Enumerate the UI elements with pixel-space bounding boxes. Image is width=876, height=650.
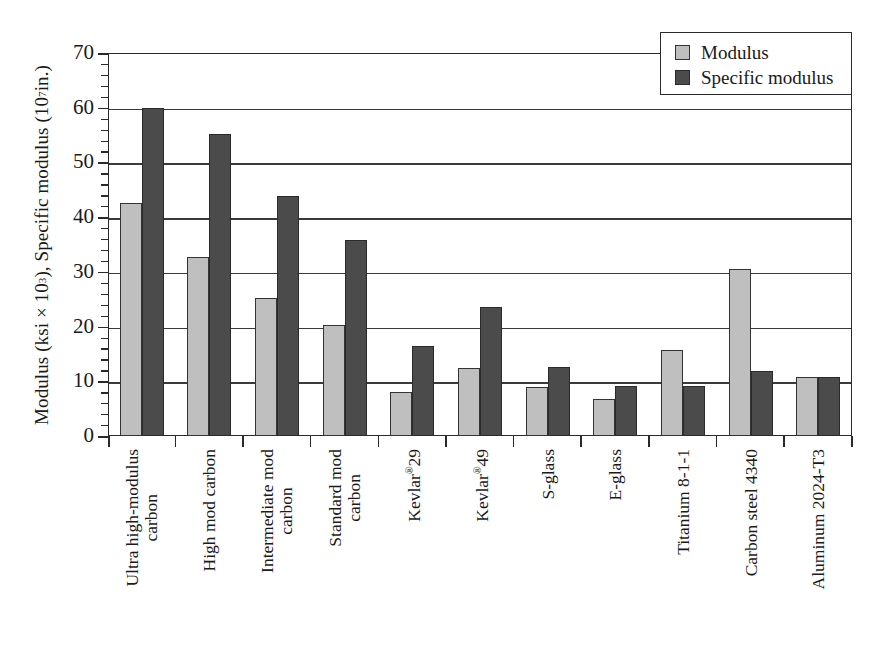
bar-group (717, 53, 785, 436)
legend-label-specific-modulus: Specific modulus (701, 68, 833, 87)
legend-swatch-modulus-icon (675, 45, 690, 60)
bar (729, 269, 751, 436)
x-axis-label: Aluminum 2024-T3 (809, 449, 828, 589)
x-tick (581, 436, 649, 447)
bar (390, 392, 412, 436)
y-tick-label: 0 (48, 425, 94, 446)
bar (458, 368, 480, 436)
x-axis-label: Kevlar®29 (400, 449, 424, 522)
x-tick (379, 436, 447, 447)
bar (615, 386, 637, 436)
bar (345, 240, 367, 436)
x-axis-ticks (108, 436, 852, 447)
bar-group (446, 53, 514, 436)
y-tick-label: 40 (48, 206, 94, 227)
bar (593, 399, 615, 436)
bar-group (176, 53, 244, 436)
bar (323, 325, 345, 436)
x-tick (176, 436, 244, 447)
x-axis-label: High mod carbon (200, 449, 219, 571)
bar (526, 387, 548, 436)
x-label-cell: Kevlar®29 (379, 449, 447, 649)
bar (480, 307, 502, 436)
y-tick-label: 50 (48, 151, 94, 172)
legend-label-modulus: Modulus (701, 43, 769, 62)
legend-item-specific-modulus: Specific modulus (675, 65, 851, 90)
x-axis-label: Ultra high-moduluscarbon (123, 449, 161, 587)
bar (751, 371, 773, 436)
y-tick-label: 30 (48, 261, 94, 282)
x-label-cell: Standard modcarbon (311, 449, 379, 649)
bar (120, 203, 142, 436)
legend-item-modulus: Modulus (675, 40, 851, 65)
legend-swatch-specific-modulus-icon (675, 70, 690, 85)
x-axis-labels: Ultra high-moduluscarbonHigh mod carbonI… (108, 449, 852, 649)
bar (209, 134, 231, 436)
y-axis-title-pre: Modulus (ksi × 10 (31, 283, 53, 425)
x-axis-label: Carbon steel 4340 (741, 449, 760, 576)
bar (142, 108, 164, 436)
y-axis-title-exp2: 7 (36, 91, 48, 97)
bar-group (784, 53, 852, 436)
x-axis-label: Titanium 8-1-1 (673, 449, 692, 555)
y-axis-title-exp1: 3 (36, 278, 48, 284)
legend: Modulus Specific modulus (660, 32, 852, 95)
y-tick-label: 10 (48, 370, 94, 391)
x-tick (108, 436, 176, 447)
x-tick (311, 436, 379, 447)
bar (818, 377, 840, 436)
x-label-cell: Ultra high-moduluscarbon (108, 449, 176, 649)
bar (412, 346, 434, 436)
x-tick (514, 436, 582, 447)
x-label-cell: Intermediate modcarbon (243, 449, 311, 649)
x-tick (243, 436, 311, 447)
x-axis-label: E-glass (606, 449, 625, 501)
x-label-cell: Titanium 8-1-1 (649, 449, 717, 649)
x-axis-label: Intermediate modcarbon (258, 449, 296, 573)
y-tick-label: 60 (48, 97, 94, 118)
x-label-cell: E-glass (581, 449, 649, 649)
y-tick-label: 70 (48, 42, 94, 63)
bar (187, 257, 209, 436)
bar (796, 377, 818, 436)
x-label-cell: S-glass (514, 449, 582, 649)
x-tick (717, 436, 785, 447)
x-tick (649, 436, 717, 447)
x-label-cell: Kevlar®49 (446, 449, 514, 649)
x-tick (784, 436, 852, 447)
bar-group (649, 53, 717, 436)
x-label-cell: High mod carbon (176, 449, 244, 649)
x-axis-label: Kevlar®49 (468, 449, 492, 522)
bar-group (379, 53, 447, 436)
y-axis-title-mid: ), Specific modulus (10 (31, 97, 53, 278)
bar-group (108, 53, 176, 436)
bar (255, 298, 277, 436)
x-axis-label: S-glass (538, 449, 557, 500)
y-axis-title: Modulus (ksi × 103), Specific modulus (1… (29, 30, 55, 460)
x-label-cell: Aluminum 2024-T3 (784, 449, 852, 649)
bar-group (581, 53, 649, 436)
x-tick (446, 436, 514, 447)
x-label-cell: Carbon steel 4340 (717, 449, 785, 649)
chart-figure: Modulus (ksi × 103), Specific modulus (1… (0, 0, 876, 650)
x-axis-label: Standard modcarbon (326, 449, 364, 547)
bar (548, 367, 570, 436)
bar-group (514, 53, 582, 436)
bar (683, 386, 705, 436)
y-tick-label: 20 (48, 316, 94, 337)
bar (277, 196, 299, 436)
bar-group (243, 53, 311, 436)
y-axis-title-post: in.) (31, 65, 53, 91)
bar (661, 350, 683, 436)
bar-group (311, 53, 379, 436)
bar-groups (108, 53, 852, 436)
